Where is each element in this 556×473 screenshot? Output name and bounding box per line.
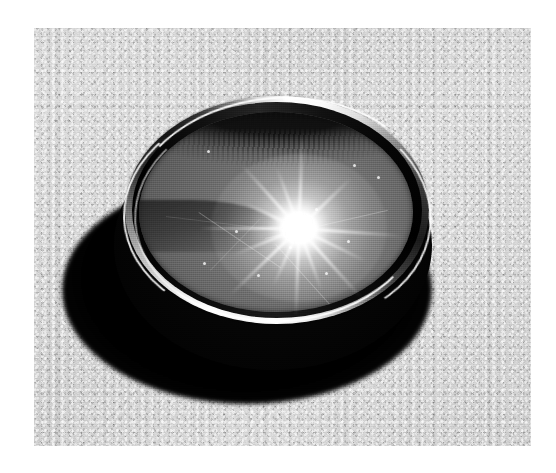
glass-speck xyxy=(289,246,292,249)
reflected-horizon-band xyxy=(139,200,281,252)
glass-facet-line xyxy=(265,210,388,239)
glass-speck xyxy=(353,164,356,167)
rim-glint xyxy=(282,95,290,101)
photograph: Black-and-white photograph showing a cir… xyxy=(34,28,531,446)
glass-speck xyxy=(235,230,238,233)
glass-speck xyxy=(325,272,328,275)
glass-facet-line xyxy=(275,244,331,306)
reflected-treeline xyxy=(155,112,396,168)
glass-speck xyxy=(207,150,210,153)
glass-speck xyxy=(347,240,350,243)
screenshot-root: Black-and-white photograph showing a cir… xyxy=(0,0,556,473)
glass-speck xyxy=(377,176,380,179)
lens-glass-surface xyxy=(139,112,413,312)
glass-speck xyxy=(315,208,318,211)
glass-speck xyxy=(257,274,260,277)
glass-speck xyxy=(203,262,206,265)
